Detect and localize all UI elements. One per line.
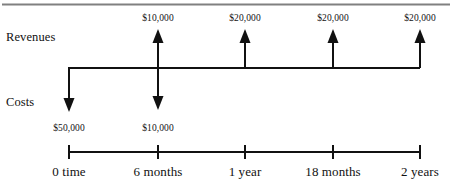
timeline-graphic [0, 0, 452, 187]
axis-tick-label-1-year: 1 year [229, 165, 262, 178]
outflow-arrow-0-time [64, 67, 75, 112]
cash-flow-timeline-diagram: Revenues Costs $10,000 $20,000 $20,000 $… [0, 0, 452, 187]
axis-tick-label-18-months: 18 months [305, 165, 360, 178]
inflow-arrow-1-year [240, 29, 251, 68]
inflow-amount-18-months: $20,000 [317, 14, 349, 24]
inflow-amount-6-months: $10,000 [142, 14, 174, 24]
revenues-row-label: Revenues [6, 31, 55, 44]
inflow-arrow-18-months [328, 29, 339, 68]
axis-tick-label-6-months: 6 months [134, 165, 183, 178]
outflow-amount-6-months: $10,000 [142, 124, 174, 134]
inflow-arrow-2-years [415, 29, 426, 68]
axis-tick-label-2-years: 2 years [401, 165, 439, 178]
outflow-arrow-6-months [153, 62, 164, 110]
outflow-amount-0-time: $50,000 [53, 124, 85, 134]
inflow-amount-1-year: $20,000 [229, 14, 261, 24]
costs-row-label: Costs [6, 96, 34, 109]
axis-tick-label-0-time: 0 time [52, 165, 85, 178]
inflow-amount-2-years: $20,000 [404, 14, 436, 24]
